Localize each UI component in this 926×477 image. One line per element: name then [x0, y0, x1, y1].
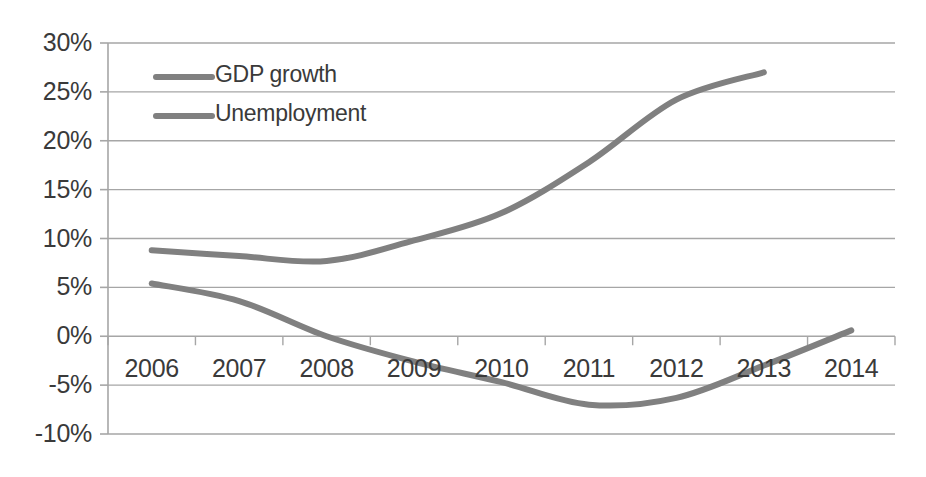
x-axis-label: 2009 [370, 354, 457, 383]
y-axis-label: 15% [0, 175, 92, 204]
x-axis-label: 2013 [720, 354, 807, 383]
x-axis-label: 2006 [108, 354, 195, 383]
y-axis-label: 0% [0, 321, 92, 350]
legend-label-unemployment: Unemployment [215, 100, 366, 127]
y-axis-label: 20% [0, 126, 92, 155]
x-axis-label: 2007 [195, 354, 282, 383]
x-axis-label: 2011 [545, 354, 632, 383]
x-axis-label: 2010 [458, 354, 545, 383]
y-axis-label: 30% [0, 28, 92, 57]
y-axis-label: 10% [0, 224, 92, 253]
legend-swatch-gdp-growth [153, 74, 215, 80]
y-axis-label: -10% [0, 419, 92, 448]
x-axis-label: 2014 [808, 354, 895, 383]
y-axis-label: 5% [0, 272, 92, 301]
chart-plot-svg [0, 0, 926, 477]
y-axis-label: -5% [0, 370, 92, 399]
x-axis-label: 2012 [633, 354, 720, 383]
legend-swatch-unemployment [153, 113, 215, 119]
x-axis-label: 2008 [283, 354, 370, 383]
chart-container: 30%25%20%15%10%5%0%-5%-10% 2006200720082… [0, 0, 926, 477]
series-line-gdp-growth [152, 283, 852, 405]
legend-label-gdp-growth: GDP growth [215, 61, 337, 88]
y-axis-label: 25% [0, 77, 92, 106]
